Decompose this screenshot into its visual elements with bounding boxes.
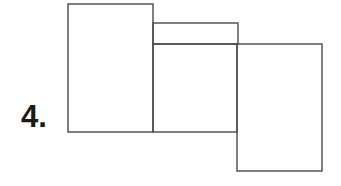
middle-rectangle (153, 44, 237, 132)
right-rectangle (237, 44, 322, 171)
middle-top-strip (153, 23, 238, 44)
rectangles-diagram (0, 0, 341, 186)
left-rectangle (68, 4, 153, 132)
